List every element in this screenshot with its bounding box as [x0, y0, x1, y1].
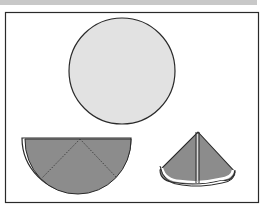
paper-circle — [69, 18, 175, 124]
diagram-canvas — [0, 0, 267, 211]
